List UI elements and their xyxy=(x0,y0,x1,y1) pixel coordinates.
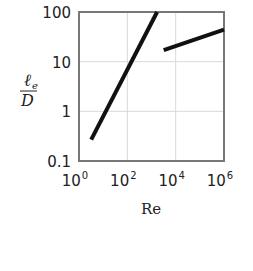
y-axis-label: ℓ e D xyxy=(20,70,38,110)
x-axis-label: Re xyxy=(141,200,161,218)
y-label-denominator: D xyxy=(20,91,34,110)
chart: 1001010.1 100102104106 ℓ e D Re xyxy=(0,0,253,271)
y-tick-label: 0.1 xyxy=(47,153,71,171)
series-laminar xyxy=(91,12,157,140)
series-lines xyxy=(91,12,224,140)
y-tick-label: 100 xyxy=(42,4,71,22)
x-tick-label: 106 xyxy=(207,170,233,190)
series-turbulent xyxy=(164,30,224,51)
y-label-subscript: e xyxy=(32,80,38,91)
x-tick-labels: 100102104106 xyxy=(62,170,233,190)
y-tick-label: 1 xyxy=(61,103,71,121)
plot-frame xyxy=(79,12,224,161)
x-tick-label: 104 xyxy=(158,170,184,190)
y-label-numerator: ℓ xyxy=(24,70,31,90)
y-tick-label: 10 xyxy=(52,54,71,72)
x-tick-label: 102 xyxy=(110,170,136,190)
x-tick-label: 100 xyxy=(62,170,88,190)
y-tick-labels: 1001010.1 xyxy=(42,4,71,171)
grid-lines xyxy=(79,12,224,161)
